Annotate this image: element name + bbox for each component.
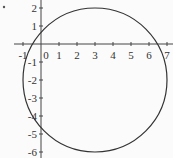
x-tick-label: 3 xyxy=(92,49,98,61)
y-tick-label: -1 xyxy=(28,56,37,68)
y-tick-label: 2 xyxy=(32,2,38,14)
circle-curve xyxy=(23,8,167,152)
y-tick-label: -2 xyxy=(28,74,37,86)
circle-diagram: -10123456721-1-2-3-4-5-6 xyxy=(0,0,173,158)
x-tick-label: 2 xyxy=(74,49,80,61)
y-tick-label: -5 xyxy=(28,128,38,140)
y-tick-label: -3 xyxy=(28,92,38,104)
dot-mark xyxy=(3,6,5,8)
coordinate-plane: -10123456721-1-2-3-4-5-6 xyxy=(0,0,173,158)
y-tick-label: 1 xyxy=(32,20,38,32)
x-tick-label: 0 xyxy=(43,49,49,61)
x-tick-label: 5 xyxy=(128,49,134,61)
axes xyxy=(14,0,173,158)
y-tick-label: -6 xyxy=(28,146,38,158)
x-tick-label: 7 xyxy=(164,49,170,61)
x-tick-label: 4 xyxy=(110,49,116,61)
x-tick-label: 1 xyxy=(56,49,62,61)
x-tick-label: 6 xyxy=(146,49,152,61)
